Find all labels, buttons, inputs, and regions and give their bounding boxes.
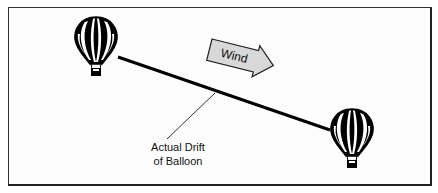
balloon-start-icon <box>75 17 117 76</box>
wind-arrow-icon: Wind <box>205 34 277 81</box>
label-leader-line <box>167 93 215 139</box>
drift-label: Actual Drift of Balloon <box>138 140 218 168</box>
drift-label-line2: of Balloon <box>138 154 218 168</box>
drift-diagram: Wind <box>0 0 438 193</box>
drift-label-line1: Actual Drift <box>138 140 218 154</box>
drift-path-line <box>118 57 330 130</box>
balloon-end-icon <box>331 109 373 168</box>
